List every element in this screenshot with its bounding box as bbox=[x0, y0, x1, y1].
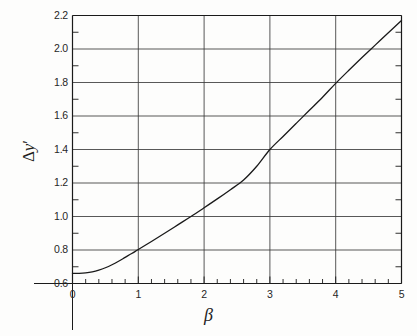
x-axis-title: β bbox=[0, 305, 417, 326]
x-axis-minor-ticks bbox=[73, 277, 402, 284]
data-series-curve bbox=[73, 21, 402, 274]
horizontal-gridlines bbox=[73, 16, 402, 251]
x-axis-tick-label: 0 bbox=[63, 288, 83, 300]
y-axis-tick-label: 1.0 bbox=[36, 210, 68, 222]
y-axis-title: Δy′ bbox=[6, 128, 52, 174]
y-axis-tick-label: 2.0 bbox=[36, 42, 68, 54]
x-axis-tick-label: 1 bbox=[128, 288, 148, 300]
x-axis-tick-label: 5 bbox=[392, 288, 412, 300]
y-axis-title-variable: y bbox=[19, 144, 39, 152]
y-axis-tick-label: 1.8 bbox=[36, 76, 68, 88]
y-axis-tick-label: 1.2 bbox=[36, 176, 68, 188]
y-axis-title-prime: ′ bbox=[19, 140, 39, 144]
figure-chart-delta-y-vs-beta: 0.60.81.01.21.41.61.82.02.2 012345 Δy′ β bbox=[0, 0, 417, 336]
x-axis-tick-label: 3 bbox=[260, 288, 280, 300]
x-axis-tick-label: 2 bbox=[194, 288, 214, 300]
x-axis-tick-label: 4 bbox=[326, 288, 346, 300]
y-axis-title-delta: Δ bbox=[19, 151, 39, 162]
y-axis-tick-label: 1.6 bbox=[36, 109, 68, 121]
y-axis-tick-label: 2.2 bbox=[36, 9, 68, 21]
y-axis-tick-label: 0.8 bbox=[36, 243, 68, 255]
